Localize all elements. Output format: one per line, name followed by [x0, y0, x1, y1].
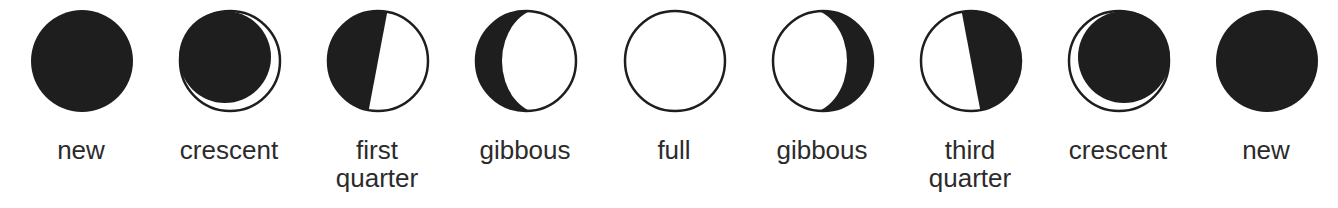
phase-label: full: [600, 136, 748, 164]
waning-crescent-moon-icon: [1067, 8, 1171, 114]
third-quarter-moon-icon: [919, 8, 1023, 114]
phase-label: new: [7, 136, 155, 164]
first-quarter-moon-icon: [326, 8, 430, 114]
phase-waning-crescent: crescent: [1044, 0, 1192, 208]
phase-label: gibbous: [748, 136, 896, 164]
phase-label: third quarter: [896, 136, 1044, 192]
waxing-crescent-moon-icon: [178, 8, 282, 114]
phase-new-2: new: [1192, 0, 1338, 208]
phase-label: crescent: [155, 136, 303, 164]
waning-gibbous-moon-icon: [771, 8, 875, 114]
phase-label: crescent: [1044, 136, 1192, 164]
waxing-gibbous-moon-icon: [474, 8, 578, 114]
full-moon-icon: [623, 8, 727, 114]
phase-first-quarter: first quarter: [303, 0, 451, 208]
phase-new-1: new: [7, 0, 155, 208]
phase-waxing-crescent: crescent: [155, 0, 303, 208]
phase-third-quarter: third quarter: [896, 0, 1044, 208]
phase-waxing-gibbous: gibbous: [451, 0, 599, 208]
new-moon-icon: [1215, 8, 1319, 114]
phase-full: full: [600, 0, 748, 208]
phase-label: new: [1192, 136, 1338, 164]
new-moon-icon: [30, 8, 134, 114]
phase-label: first quarter: [303, 136, 451, 192]
phase-label: gibbous: [451, 136, 599, 164]
phase-waning-gibbous: gibbous: [748, 0, 896, 208]
